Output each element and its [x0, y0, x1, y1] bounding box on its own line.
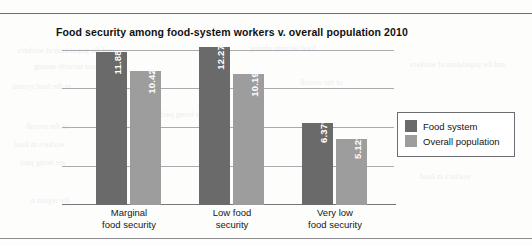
- bar-food-system-low[interactable]: 12.27%: [199, 47, 230, 205]
- legend-swatch-icon: [405, 135, 417, 147]
- category-line: food security: [69, 219, 189, 231]
- legend-item-food-system[interactable]: Food system: [405, 120, 508, 132]
- category-line: Low food: [172, 207, 292, 219]
- category-line: food security: [275, 219, 395, 231]
- chart-title: Food security among food-system workers …: [56, 26, 408, 38]
- bar-value-label: 11.88%: [112, 42, 123, 75]
- legend-label: Food system: [423, 121, 477, 132]
- legend-label: Overall population: [423, 136, 500, 147]
- category-label-low: Low food security: [172, 207, 292, 230]
- bar-food-system-very-low[interactable]: 6.37%: [302, 123, 333, 205]
- bar-group-low-food-security: 12.27% 10.19%: [199, 50, 264, 205]
- bar-overall-population-low[interactable]: 10.19%: [233, 74, 264, 205]
- bar-value-label: 10.42%: [146, 60, 157, 93]
- bar-value-label: 5.12%: [352, 131, 363, 159]
- plot-area: 11.88% 10.42% 12.27% 10.19% 6.37% 5.12% …: [62, 50, 394, 205]
- category-line: security: [172, 219, 292, 231]
- page-rule-bottom: [0, 238, 532, 239]
- bar-value-label: 6.37%: [318, 115, 329, 143]
- bar-group-marginal: 11.88% 10.42%: [96, 50, 161, 205]
- chart-figure: Food security among food-system workers …: [0, 14, 532, 238]
- bar-food-system-marginal[interactable]: 11.88%: [96, 52, 127, 205]
- category-line: Very low: [275, 207, 395, 219]
- category-line: Marginal: [69, 207, 189, 219]
- category-label-marginal: Marginal food security: [69, 207, 189, 230]
- chart-legend: Food system Overall population: [397, 112, 515, 157]
- legend-swatch-icon: [405, 120, 417, 132]
- legend-item-overall-population[interactable]: Overall population: [405, 135, 508, 147]
- bar-overall-population-marginal[interactable]: 10.42%: [130, 71, 161, 205]
- bar-value-label: 12.27%: [215, 36, 226, 69]
- bar-group-very-low-food-security: 6.37% 5.12%: [302, 50, 367, 205]
- bar-overall-population-very-low[interactable]: 5.12%: [336, 139, 367, 205]
- bar-value-label: 10.19%: [249, 63, 260, 96]
- category-label-very-low: Very low food security: [275, 207, 395, 230]
